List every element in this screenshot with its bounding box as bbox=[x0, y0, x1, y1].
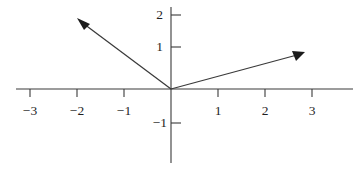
y-tick-label-1: 1 bbox=[156, 40, 163, 54]
y-tick-label-minus1: −1 bbox=[153, 116, 167, 130]
left-ray-segment bbox=[84, 24, 171, 89]
x-tick-label-2: 2 bbox=[262, 104, 269, 118]
x-tick-label-minus1: −1 bbox=[117, 104, 131, 118]
x-tick-label-minus3: −3 bbox=[23, 104, 37, 118]
y-tick-label-2: 2 bbox=[156, 8, 163, 22]
left-ray-arrowhead bbox=[77, 18, 90, 30]
x-tick-label-1: 1 bbox=[215, 104, 222, 118]
x-tick-label-3: 3 bbox=[309, 104, 316, 118]
graph-figure: −3 −2 −1 1 2 3 2 1 −1 bbox=[0, 0, 360, 171]
right-ray-segment bbox=[171, 55, 297, 89]
coordinate-plane bbox=[0, 0, 360, 171]
x-tick-label-minus2: −2 bbox=[70, 104, 84, 118]
